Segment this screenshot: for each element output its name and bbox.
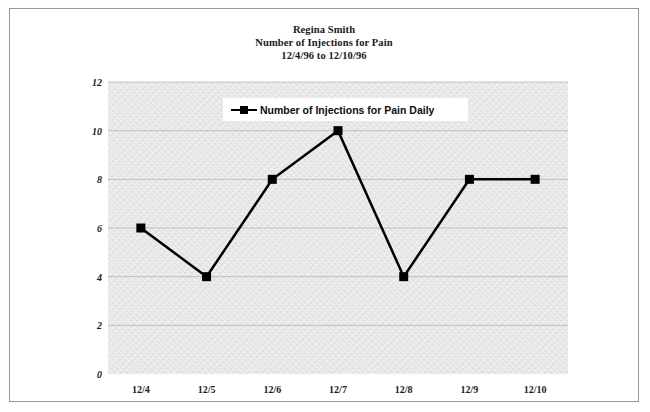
x-axis-tick-label: 12/10 xyxy=(505,384,565,395)
series-line xyxy=(141,131,535,277)
y-axis-tick-label: 6 xyxy=(76,223,102,234)
legend-series-marker-icon xyxy=(231,105,257,115)
x-axis-tick-label: 12/6 xyxy=(242,384,302,395)
y-axis-tick-label: 8 xyxy=(76,174,102,185)
y-axis-tick-label: 12 xyxy=(76,77,102,88)
y-axis-tick-label: 4 xyxy=(76,271,102,282)
data-point-marker xyxy=(136,224,145,233)
chart-title-line-2: Number of Injections for Pain xyxy=(10,36,638,49)
chart-title-line-1: Regina Smith xyxy=(10,23,638,36)
data-point-marker xyxy=(268,175,277,184)
data-point-marker xyxy=(465,175,474,184)
legend-series-label: Number of Injections for Pain Daily xyxy=(260,104,434,116)
x-axis-tick-label: 12/7 xyxy=(308,384,368,395)
data-point-marker xyxy=(531,175,540,184)
y-axis-tick-label: 10 xyxy=(76,125,102,136)
y-axis-tick-label: 0 xyxy=(76,369,102,380)
y-axis-tick-label: 2 xyxy=(76,320,102,331)
x-axis-tick-label: 12/9 xyxy=(439,384,499,395)
x-axis-tick-label: 12/5 xyxy=(177,384,237,395)
y-axis-tick-labels: 024681012 xyxy=(72,82,102,374)
data-point-marker xyxy=(334,126,343,135)
x-axis-tick-labels: 12/412/512/612/712/812/912/10 xyxy=(108,384,568,400)
chart-title-block: Regina Smith Number of Injections for Pa… xyxy=(10,23,638,62)
data-point-marker xyxy=(202,272,211,281)
chart-title-line-3: 12/4/96 to 12/10/96 xyxy=(10,49,638,62)
chart-frame: Regina Smith Number of Injections for Pa… xyxy=(9,8,639,402)
line-chart-svg xyxy=(108,82,568,374)
plot-area xyxy=(108,82,568,374)
chart-legend: Number of Injections for Pain Daily xyxy=(223,98,468,121)
x-axis-tick-label: 12/4 xyxy=(111,384,171,395)
x-axis-tick-label: 12/8 xyxy=(374,384,434,395)
data-point-marker xyxy=(399,272,408,281)
